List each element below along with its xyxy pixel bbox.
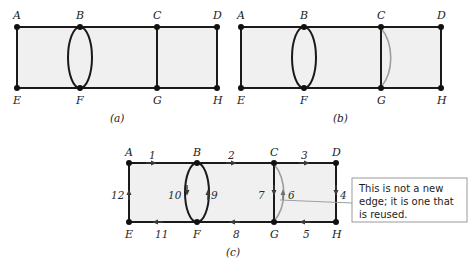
panel-a-label-C: C <box>153 9 162 22</box>
panel-c-label-B: B <box>192 146 201 159</box>
callout-line-1: This is not a new <box>358 183 443 194</box>
panel-c-label-D: D <box>331 146 341 159</box>
panel-c-edgenum-7: 7 <box>258 189 265 201</box>
panel-c-node-B <box>194 160 200 166</box>
graph-figure-svg: A B C D E F G H (a) <box>0 0 476 271</box>
panel-a-node-F <box>77 85 83 91</box>
panel-b-label-B: B <box>299 9 308 22</box>
panel-b-node-F <box>301 85 307 91</box>
panel-b: A B C D E F G H (b) <box>236 9 447 124</box>
panel-b-label-A: A <box>236 9 245 22</box>
panel-c-label-F: F <box>192 228 201 241</box>
panel-c-edgenum-5: 5 <box>303 228 310 240</box>
panel-c-edgenum-4: 4 <box>339 189 347 201</box>
panel-b-node-A <box>238 24 244 30</box>
panel-a-label-G: G <box>153 94 162 107</box>
panel-c-edgenum-6: 6 <box>288 189 295 201</box>
panel-b-caption: (b) <box>333 112 348 124</box>
panel-b-label-H: H <box>436 94 447 107</box>
panel-b-node-B <box>301 24 307 30</box>
panel-c-label-A: A <box>124 146 133 159</box>
panel-c-edgenum-8: 8 <box>233 228 240 240</box>
panel-b-face <box>241 27 441 88</box>
panel-a-node-H <box>214 85 220 91</box>
panel-c-label-H: H <box>331 228 342 241</box>
figure-root: A B C D E F G H (a) <box>0 0 476 271</box>
panel-c-edgenum-3: 3 <box>301 149 308 161</box>
panel-a-label-D: D <box>212 9 222 22</box>
panel-c-edgenum-10: 10 <box>168 189 182 201</box>
panel-b-node-H <box>438 85 444 91</box>
panel-b-node-C <box>378 24 384 30</box>
panel-a-label-E: E <box>12 94 21 107</box>
panel-a: A B C D E F G H (a) <box>12 9 223 124</box>
panel-a-face <box>17 27 217 88</box>
panel-a-node-E <box>14 85 20 91</box>
panel-a-node-G <box>154 85 160 91</box>
panel-b-node-E <box>238 85 244 91</box>
callout-line-3: is reused. <box>359 209 407 220</box>
panel-a-label-F: F <box>75 94 84 107</box>
panel-a-node-D <box>214 24 220 30</box>
panel-c-edgenum-1: 1 <box>149 149 156 161</box>
panel-c-node-G <box>271 219 277 225</box>
panel-c-node-C <box>271 160 277 166</box>
panel-b-label-D: D <box>436 9 446 22</box>
callout-line-2: edge; it is one that <box>359 196 454 207</box>
panel-c-caption: (c) <box>226 246 240 258</box>
panel-a-node-C <box>154 24 160 30</box>
panel-a-caption: (a) <box>110 112 124 124</box>
panel-b-node-D <box>438 24 444 30</box>
panel-c-label-C: C <box>270 146 279 159</box>
panel-c-edgenum-11: 11 <box>155 228 168 240</box>
panel-c-label-G: G <box>270 228 279 241</box>
panel-c-edgenum-12: 12 <box>111 189 125 201</box>
panel-c-node-D <box>333 160 339 166</box>
panel-a-node-A <box>14 24 20 30</box>
panel-a-label-B: B <box>75 9 84 22</box>
panel-c-edgenum-2: 2 <box>227 149 235 161</box>
panel-b-node-G <box>378 85 384 91</box>
panel-c-label-E: E <box>124 228 133 241</box>
panel-c-node-A <box>126 160 132 166</box>
panel-a-node-B <box>77 24 83 30</box>
panel-c-edgenum-9: 9 <box>211 189 218 201</box>
panel-c-node-H <box>333 219 339 225</box>
panel-b-label-G: G <box>377 94 386 107</box>
panel-b-label-E: E <box>236 94 245 107</box>
panel-c-face <box>129 163 336 222</box>
panel-c: A B C D E F G H 1 2 3 4 5 6 7 8 9 10 11 … <box>111 146 467 258</box>
panel-a-label-H: H <box>212 94 223 107</box>
panel-b-label-C: C <box>377 9 386 22</box>
panel-a-label-A: A <box>12 9 21 22</box>
panel-c-node-F <box>194 219 200 225</box>
panel-b-label-F: F <box>299 94 308 107</box>
panel-c-node-E <box>126 219 132 225</box>
